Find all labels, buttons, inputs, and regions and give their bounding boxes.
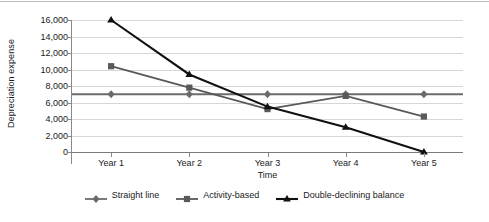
x-axis-tick-mark xyxy=(424,153,425,157)
square-marker xyxy=(184,196,190,202)
diamond-marker xyxy=(264,90,271,98)
triangle-marker xyxy=(107,16,115,23)
depreciation-expense-line-chart: Depreciation expense 02,0004,0006,0008,0… xyxy=(0,0,489,222)
y-axis-tick-label: 16,000 xyxy=(20,15,68,25)
y-axis-tick-mark xyxy=(67,70,72,71)
square-marker xyxy=(421,113,427,119)
legend-key-diamond-icon xyxy=(85,190,107,200)
chart-legend: Straight lineActivity-basedDouble-declin… xyxy=(0,190,489,200)
y-axis-tick-labels: 02,0004,0006,0008,00010,00012,00014,0001… xyxy=(16,0,68,222)
x-axis-tick-mark xyxy=(268,153,269,157)
square-marker xyxy=(108,63,114,69)
x-axis-tick-label: Year 3 xyxy=(238,158,298,168)
page-top-rule xyxy=(0,1,489,2)
series-double-declining-balance xyxy=(107,16,428,155)
y-axis-tick-mark xyxy=(67,20,72,21)
legend-label: Activity-based xyxy=(203,190,259,200)
series-line xyxy=(111,20,424,152)
y-axis-tick-mark xyxy=(67,37,72,38)
y-axis-tick-label: 4,000 xyxy=(20,114,68,124)
y-axis-tick-label: 6,000 xyxy=(20,98,68,108)
legend-item-straight-line[interactable]: Straight line xyxy=(85,190,160,200)
x-axis-tick-mark xyxy=(346,153,347,157)
legend-item-double-declining-balance[interactable]: Double-declining balance xyxy=(276,190,404,200)
y-axis-tick-label: 8,000 xyxy=(20,81,68,91)
legend-key-triangle-icon xyxy=(276,190,298,200)
x-axis-tick-label: Year 2 xyxy=(159,158,219,168)
square-marker xyxy=(186,85,192,91)
diamond-marker xyxy=(186,90,193,98)
series-straight-line xyxy=(72,90,463,98)
y-axis-tick-mark xyxy=(67,53,72,54)
plot-area xyxy=(72,20,463,152)
x-axis-title: Time xyxy=(72,170,463,180)
x-axis-tick-label: Year 1 xyxy=(81,158,141,168)
diamond-marker xyxy=(92,195,99,203)
y-axis-tick-label: 14,000 xyxy=(20,32,68,42)
diamond-marker xyxy=(108,90,115,98)
y-axis-tick-mark xyxy=(67,136,72,137)
legend-key-square-icon xyxy=(176,190,198,200)
x-axis-tick-label: Year 5 xyxy=(394,158,454,168)
legend-item-activity-based[interactable]: Activity-based xyxy=(176,190,259,200)
y-axis-tick-label: 12,000 xyxy=(20,48,68,58)
y-axis-title-text: Depreciation expense xyxy=(6,39,16,128)
y-axis-tick-label: 0 xyxy=(20,147,68,157)
y-axis-tick-mark xyxy=(67,152,72,153)
y-axis-tick-mark xyxy=(67,119,72,120)
square-marker xyxy=(343,93,349,99)
y-axis-tick-label: 2,000 xyxy=(20,131,68,141)
y-axis-tick-mark xyxy=(67,86,72,87)
y-axis-tick-label: 10,000 xyxy=(20,65,68,75)
legend-label: Straight line xyxy=(112,190,160,200)
series-lines xyxy=(72,20,463,152)
x-axis-tick-mark xyxy=(189,153,190,157)
y-axis-tick-mark xyxy=(67,103,72,104)
legend-label: Double-declining balance xyxy=(303,190,404,200)
x-axis-tick-label: Year 4 xyxy=(316,158,376,168)
x-axis-tick-mark xyxy=(111,153,112,157)
diamond-marker xyxy=(420,90,427,98)
